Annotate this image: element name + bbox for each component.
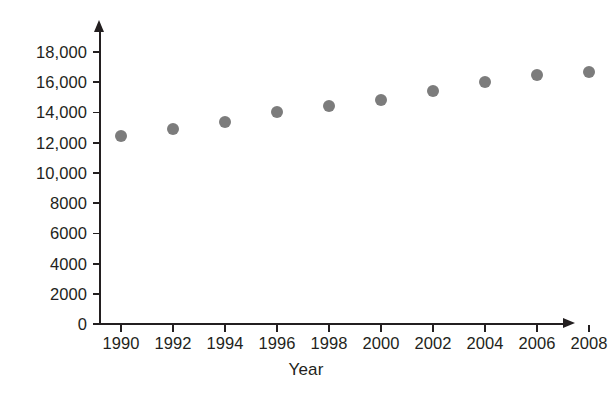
x-axis-line xyxy=(99,323,565,325)
y-axis-tick xyxy=(93,323,100,325)
y-axis-tick-label: 6000 xyxy=(0,224,87,243)
x-axis-tick-label: 2006 xyxy=(518,334,555,353)
data-point xyxy=(427,85,439,97)
y-axis-tick-label: 0 xyxy=(0,315,87,334)
data-point xyxy=(167,123,179,135)
x-axis-tick-label: 2002 xyxy=(414,334,451,353)
data-point xyxy=(115,130,127,142)
y-axis-tick xyxy=(93,263,100,265)
y-axis-line xyxy=(99,30,101,325)
x-axis-tick xyxy=(120,325,122,332)
x-axis-tick xyxy=(432,325,434,332)
x-axis-tick-label: 2008 xyxy=(570,334,607,353)
y-axis-tick-label: 2000 xyxy=(0,285,87,304)
y-axis-tick-label: 10,000 xyxy=(0,164,87,183)
x-axis-tick xyxy=(172,325,174,332)
data-point xyxy=(479,76,491,88)
y-axis-tick-label: 14,000 xyxy=(0,103,87,122)
data-point xyxy=(323,100,335,112)
y-axis-tick-label: 8000 xyxy=(0,194,87,213)
x-axis-tick xyxy=(328,325,330,332)
x-axis-tick-label: 1994 xyxy=(206,334,243,353)
y-axis-tick-label: 4000 xyxy=(0,255,87,274)
x-axis-tick-label: 1992 xyxy=(154,334,191,353)
x-axis-tick-label: 2004 xyxy=(466,334,503,353)
y-axis-tick xyxy=(93,51,100,53)
data-point xyxy=(583,66,595,78)
data-point xyxy=(531,69,543,81)
x-axis-tick-label: 2000 xyxy=(362,334,399,353)
y-axis-tick xyxy=(93,142,100,144)
y-axis-tick xyxy=(93,233,100,235)
y-axis-tick-label: 16,000 xyxy=(0,73,87,92)
data-point xyxy=(271,106,283,118)
x-axis-tick-label: 1996 xyxy=(258,334,295,353)
x-axis-tick xyxy=(276,325,278,332)
x-axis-tick xyxy=(224,325,226,332)
x-axis-tick-label: 1990 xyxy=(102,334,139,353)
y-axis-arrow-icon xyxy=(94,20,104,32)
x-axis-tick-label: 1998 xyxy=(310,334,347,353)
x-axis-arrow-icon xyxy=(563,318,575,328)
x-axis-title-label: Year xyxy=(288,360,323,380)
x-axis-tick xyxy=(588,325,590,332)
x-axis-tick xyxy=(536,325,538,332)
y-axis-tick xyxy=(93,81,100,83)
x-axis-tick xyxy=(484,325,486,332)
y-axis-tick xyxy=(93,202,100,204)
y-axis-tick xyxy=(93,172,100,174)
x-axis-title: Year xyxy=(0,360,594,380)
y-axis-tick xyxy=(93,112,100,114)
y-axis-tick-label: 18,000 xyxy=(0,43,87,62)
x-axis-tick xyxy=(380,325,382,332)
data-point xyxy=(375,94,387,106)
y-axis-tick-label: 12,000 xyxy=(0,134,87,153)
y-axis-tick xyxy=(93,293,100,295)
data-point xyxy=(219,116,231,128)
